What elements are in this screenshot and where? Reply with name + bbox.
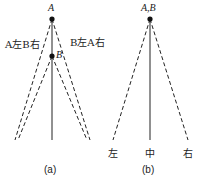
point-b-label: B [56,50,62,60]
panel-b-lines [113,19,188,140]
point-a-dot [49,16,54,21]
point-ab-label: A,B [141,3,156,13]
point-b-dot [49,53,54,58]
left-direction-label: 左 [108,149,118,159]
panel-b-caption: (b) [142,165,154,175]
panel-b-right-dashed [150,19,188,140]
panel-b-left-dashed [113,19,150,140]
diagram-canvas [0,0,198,181]
point-a-label: A [48,3,54,13]
right-annotation: B左A右 [70,38,105,48]
panel-a-a-left-dashed [15,19,52,140]
panel-a-b-left-dashed [18,56,52,140]
center-direction-label: 中 [145,149,155,159]
panel-a-caption: (a) [44,165,56,175]
right-direction-label: 右 [183,149,193,159]
panel-a-b-right-dashed [52,56,87,140]
left-annotation: A左B右 [5,40,40,50]
point-ab-dot [147,16,152,21]
